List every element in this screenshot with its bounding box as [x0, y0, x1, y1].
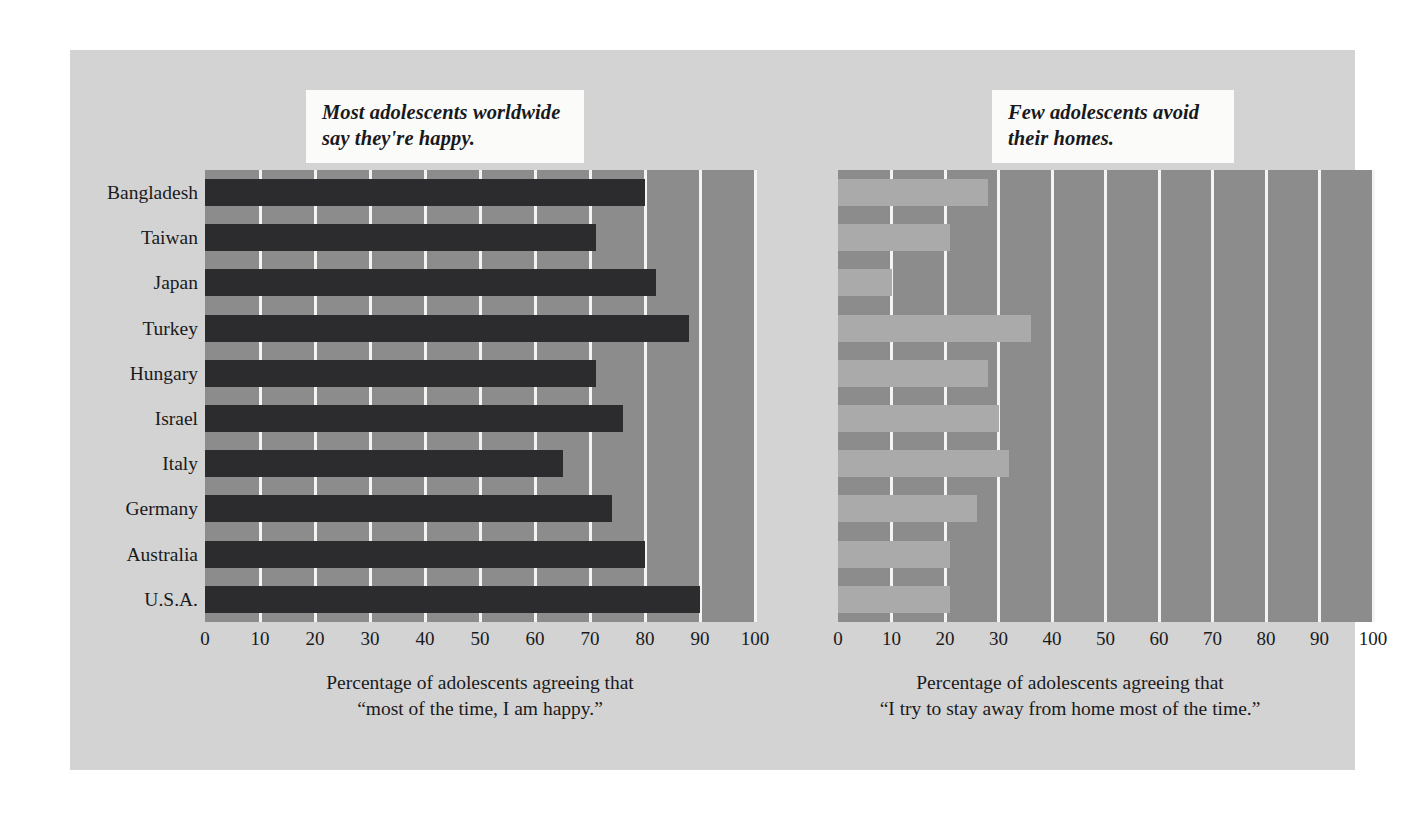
bar — [838, 450, 1009, 477]
category-label: Israel — [70, 396, 198, 441]
bar — [205, 315, 689, 342]
bar-row — [205, 441, 755, 486]
bar — [205, 541, 645, 568]
x-tick-label: 0 — [833, 628, 843, 650]
bar — [838, 541, 950, 568]
x-tick-label: 0 — [200, 628, 210, 650]
bar-row — [205, 306, 755, 351]
plot-area-left — [205, 170, 755, 622]
bar-row — [205, 532, 755, 577]
bar — [205, 179, 645, 206]
bar-row — [838, 170, 1373, 215]
bar-row — [838, 215, 1373, 260]
bar — [838, 269, 892, 296]
bar-row — [838, 486, 1373, 531]
bar-row — [205, 396, 755, 441]
x-axis-left: 0102030405060708090100 — [205, 628, 755, 658]
chart-title-right: Few adolescents avoid their homes. — [992, 90, 1234, 163]
bar — [838, 586, 950, 613]
bar-row — [205, 486, 755, 531]
bar-row — [838, 306, 1373, 351]
x-tick-label: 50 — [471, 628, 490, 650]
x-axis-right: 0102030405060708090100 — [838, 628, 1373, 658]
category-label: Taiwan — [70, 215, 198, 260]
category-label: Italy — [70, 441, 198, 486]
bar-row — [205, 351, 755, 396]
x-tick-label: 90 — [691, 628, 710, 650]
category-label: Turkey — [70, 306, 198, 351]
x-tick-label: 60 — [1150, 628, 1169, 650]
category-label: Germany — [70, 486, 198, 531]
category-label: Australia — [70, 532, 198, 577]
x-tick-label: 70 — [1203, 628, 1222, 650]
category-axis-left: BangladeshTaiwanJapanTurkeyHungaryIsrael… — [70, 170, 198, 622]
bar-row — [205, 577, 755, 622]
x-tick-label: 40 — [416, 628, 435, 650]
bar — [838, 495, 977, 522]
x-tick-label: 100 — [1359, 628, 1388, 650]
bar — [838, 224, 950, 251]
category-label: Hungary — [70, 351, 198, 396]
bar — [205, 495, 612, 522]
category-label: Japan — [70, 260, 198, 305]
x-tick-label: 50 — [1096, 628, 1115, 650]
x-tick-label: 30 — [989, 628, 1008, 650]
bar — [838, 405, 999, 432]
bar-row — [205, 170, 755, 215]
chart-panel-right: Few adolescents avoid their homes. 01020… — [730, 50, 1355, 770]
bar — [205, 360, 596, 387]
figure-panel: Most adolescents worldwide say they're h… — [70, 50, 1355, 770]
bar-row — [205, 260, 755, 305]
bar-row — [838, 351, 1373, 396]
bar-row — [838, 577, 1373, 622]
x-tick-label: 40 — [1043, 628, 1062, 650]
x-tick-label: 10 — [251, 628, 270, 650]
bar — [205, 224, 596, 251]
bar — [205, 269, 656, 296]
bar — [838, 179, 988, 206]
category-label: Bangladesh — [70, 170, 198, 215]
x-tick-label: 60 — [526, 628, 545, 650]
bar-row — [838, 396, 1373, 441]
x-tick-label: 20 — [306, 628, 325, 650]
x-tick-label: 80 — [1257, 628, 1276, 650]
bar — [838, 315, 1031, 342]
x-tick-label: 30 — [361, 628, 380, 650]
bar-row — [838, 441, 1373, 486]
bar-row — [205, 215, 755, 260]
category-label: U.S.A. — [70, 577, 198, 622]
bar — [205, 450, 563, 477]
x-tick-label: 90 — [1310, 628, 1329, 650]
bar-row — [838, 532, 1373, 577]
chart-title-left: Most adolescents worldwide say they're h… — [306, 90, 584, 163]
bar — [205, 405, 623, 432]
x-tick-label: 10 — [882, 628, 901, 650]
x-tick-label: 20 — [936, 628, 955, 650]
chart-panel-left: Most adolescents worldwide say they're h… — [70, 50, 730, 770]
x-tick-label: 80 — [636, 628, 655, 650]
x-tick-label: 70 — [581, 628, 600, 650]
x-axis-caption-left: Percentage of adolescents agreeing that … — [170, 670, 790, 723]
bar — [838, 360, 988, 387]
bar — [205, 586, 700, 613]
plot-area-right — [838, 170, 1373, 622]
bar-row — [838, 260, 1373, 305]
x-axis-caption-right: Percentage of adolescents agreeing that … — [770, 670, 1370, 723]
